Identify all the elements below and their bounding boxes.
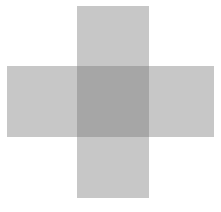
- vertical-bar-shape: [77, 6, 149, 198]
- caption-text: [0, 202, 221, 212]
- diagram-canvas: [0, 0, 221, 212]
